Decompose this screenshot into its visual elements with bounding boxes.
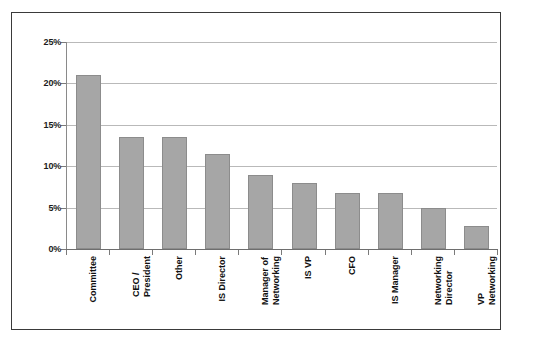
bar-manager-of-networking[interactable]: [248, 175, 273, 250]
bar-chart-figure: 25% 20% 15% 10% 5% 0% Com: [0, 0, 556, 344]
y-tick-label-15: 15%: [44, 120, 61, 130]
x-tick-mark-7: [368, 250, 369, 255]
x-label-networking-director: Networking Director: [411, 256, 454, 328]
y-tick-label-0: 0%: [48, 244, 61, 254]
x-label-other: Other: [152, 256, 195, 328]
y-tick-label-25: 25%: [44, 37, 61, 47]
x-label-line: IS Director: [217, 256, 228, 302]
x-tick-mark-1: [109, 250, 110, 255]
bar-is-manager[interactable]: [378, 193, 403, 249]
x-label-cfo: CFO: [325, 256, 368, 328]
x-tick-mark-8: [411, 250, 412, 255]
x-label-is-manager: IS Manager: [368, 256, 411, 328]
bar-is-vp[interactable]: [292, 183, 317, 249]
bar-is-director[interactable]: [205, 154, 230, 249]
x-label-ceo-president: CEO / President: [109, 256, 152, 328]
x-label-line: Director: [443, 256, 454, 305]
x-tick-mark-3: [195, 250, 196, 255]
y-tick-label-10: 10%: [44, 161, 61, 171]
x-tick-mark-4: [238, 250, 239, 255]
bar-networking-director[interactable]: [421, 208, 446, 249]
x-label-line: Other: [174, 256, 185, 280]
x-axis-category-labels: Committee CEO / President Other IS Direc…: [66, 256, 497, 330]
x-label-vp-networking: VP Networking: [454, 256, 497, 328]
x-label-committee: Committee: [66, 256, 109, 328]
x-label-line: President: [141, 256, 152, 297]
bar-vp-networking[interactable]: [464, 226, 489, 249]
x-label-line: CEO /: [131, 256, 142, 297]
x-label-line: Manager of: [260, 256, 271, 305]
x-label-line: Networking: [270, 256, 281, 305]
x-label-line: Networking: [433, 256, 444, 305]
x-tick-mark-5: [281, 250, 282, 255]
x-tick-mark-0: [66, 250, 67, 255]
x-label-line: IS Manager: [390, 256, 401, 304]
x-label-is-vp: IS VP: [281, 256, 324, 328]
bars-layer: [66, 42, 497, 249]
x-label-line: Networking: [486, 256, 497, 305]
x-tick-mark-2: [152, 250, 153, 255]
y-tick-label-5: 5%: [48, 203, 61, 213]
bar-ceo-president[interactable]: [119, 137, 144, 249]
y-tick-label-20: 20%: [44, 78, 61, 88]
x-tick-mark-10: [497, 250, 498, 255]
bar-other[interactable]: [162, 137, 187, 249]
x-label-manager-of-networking: Manager of Networking: [238, 256, 281, 328]
bar-committee[interactable]: [76, 75, 101, 249]
x-label-is-director: IS Director: [195, 256, 238, 328]
y-axis-tick-labels: 25% 20% 15% 10% 5% 0%: [20, 0, 61, 344]
x-label-line: CFO: [347, 256, 358, 275]
x-axis-line: [66, 249, 498, 250]
x-label-line: IS VP: [303, 256, 314, 279]
x-tick-mark-6: [325, 250, 326, 255]
x-label-line: VP: [476, 256, 487, 305]
bar-cfo[interactable]: [335, 193, 360, 249]
x-tick-mark-9: [454, 250, 455, 255]
x-label-line: Committee: [88, 256, 99, 303]
